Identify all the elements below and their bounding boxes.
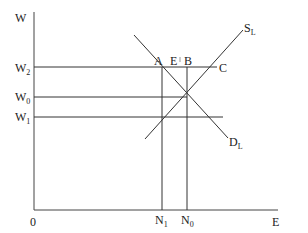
origin-label: 0	[30, 215, 36, 229]
y-axis-label: W	[15, 11, 27, 25]
demand-curve	[134, 35, 228, 138]
x-axis-label: E	[272, 215, 279, 229]
wage-label-w1: W1	[15, 110, 30, 126]
demand-curve-label: DL	[229, 135, 243, 151]
wage-label-w0: W0	[15, 90, 30, 106]
employment-label-n0: N0	[181, 213, 194, 229]
employment-label-n1: N1	[155, 213, 168, 229]
point-b-label: B	[184, 54, 192, 68]
wage-label-w2: W2	[15, 61, 30, 77]
point-a-label: A	[154, 54, 163, 68]
supply-curve-label: SL	[244, 21, 256, 37]
supply-curve	[145, 30, 243, 139]
labor-market-diagram: W E 0 W2 W0 W1 N1 N0 SL DL A E B C	[0, 0, 308, 233]
point-e-label: E	[170, 54, 177, 68]
point-c-label: C	[219, 61, 227, 75]
